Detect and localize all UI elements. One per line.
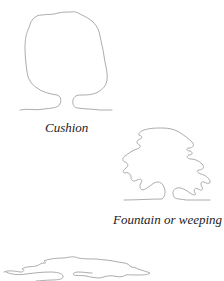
cushion-label: Cushion [45,121,88,134]
fountain-tree-outline [123,128,210,200]
flat-tree-outline [4,257,150,281]
cushion-tree-outline [20,12,112,110]
fountain-label: Fountain or weeping [113,213,222,226]
tree-shapes-diagram [0,0,224,281]
